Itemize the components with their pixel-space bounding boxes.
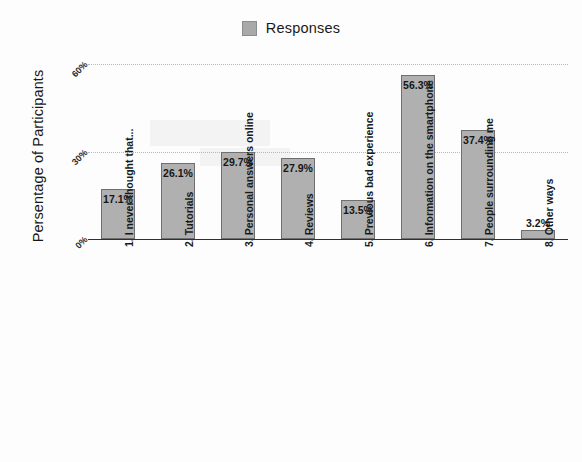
bar-value-label: 26.1% (163, 167, 193, 179)
x-axis-line (88, 239, 568, 240)
bar-slot: 13.5% 5. Previous bad experience (328, 64, 388, 239)
legend-label-responses: Responses (266, 20, 340, 36)
y-tick-label-0: 0% (50, 234, 90, 274)
plot-area: 60% 30% 0% 17.1% 1. I never thought that… (88, 64, 568, 239)
x-tick-label-3: 3. Personal answers online (243, 112, 255, 247)
bar-slot: 26.1% 2. Tutorials (148, 64, 208, 239)
bar-slot: 17.1% 1. I never thought that... (88, 64, 148, 239)
y-tick-label-30: 30% (50, 147, 90, 187)
x-tick-label-8: 8. Other ways (543, 179, 555, 247)
bar-chart-figure: Responses Persentage of Participants 60%… (0, 0, 582, 462)
bar-slot: 27.9% 4. Reviews (268, 64, 328, 239)
bar-slot: 56.3% 6. Information on the smartphone (388, 64, 448, 239)
y-tick-label-60: 60% (50, 59, 90, 99)
chart-legend: Responses (0, 20, 582, 36)
x-tick-label-7: 7. People surrounding me (483, 118, 495, 247)
x-tick-label-5: 5. Previous bad experience (363, 112, 375, 247)
bar-slot: 37.4% 7. People surrounding me (448, 64, 508, 239)
x-tick-label-1: 1. I never thought that... (123, 129, 135, 247)
y-axis-title: Persentage of Participants (30, 56, 46, 256)
bar-value-label: 27.9% (283, 162, 313, 174)
x-tick-label-6: 6. Information on the smartphone (423, 80, 435, 247)
bar-slot: 29.7% 3. Personal answers online (208, 64, 268, 239)
legend-swatch-responses (242, 21, 257, 36)
bar-series-responses: 17.1% 1. I never thought that... 26.1% 2… (88, 64, 568, 239)
bar-slot: 3.2% 8. Other ways (508, 64, 568, 239)
